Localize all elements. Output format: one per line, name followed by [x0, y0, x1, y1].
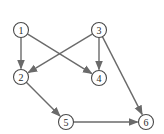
- node-4: 4: [92, 71, 107, 86]
- node-label: 3: [97, 25, 102, 36]
- node-label: 6: [144, 117, 149, 128]
- node-label: 4: [97, 73, 102, 84]
- edge-2-to-5: [26, 82, 60, 116]
- edges: [21, 34, 142, 122]
- directed-graph: 123456: [0, 0, 164, 134]
- node-3: 3: [92, 23, 107, 38]
- node-6: 6: [139, 115, 154, 130]
- node-1: 1: [14, 23, 29, 38]
- edge-3-to-6: [102, 37, 142, 115]
- node-label: 2: [19, 72, 24, 83]
- node-label: 1: [19, 25, 24, 36]
- node-5: 5: [59, 115, 74, 130]
- node-label: 5: [64, 117, 69, 128]
- node-2: 2: [14, 70, 29, 85]
